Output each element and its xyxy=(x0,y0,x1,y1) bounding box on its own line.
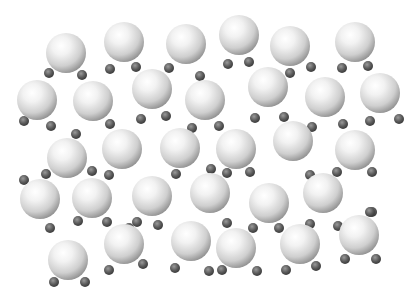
small-atom xyxy=(363,61,373,71)
large-atom xyxy=(219,15,259,55)
small-atom xyxy=(279,112,289,122)
small-atom xyxy=(250,113,260,123)
small-atom xyxy=(44,68,54,78)
small-atom xyxy=(223,59,233,69)
small-atom xyxy=(204,266,214,276)
large-atom xyxy=(270,26,310,66)
small-atom xyxy=(274,223,284,233)
large-atom xyxy=(17,80,57,120)
large-atom xyxy=(104,22,144,62)
small-atom xyxy=(311,261,321,271)
large-atom xyxy=(335,22,375,62)
large-atom xyxy=(216,228,256,268)
small-atom xyxy=(105,119,115,129)
small-atom xyxy=(244,57,254,67)
large-atom xyxy=(46,33,86,73)
large-atom xyxy=(190,173,230,213)
small-atom xyxy=(164,63,174,73)
small-atom xyxy=(217,265,227,275)
large-atom xyxy=(171,221,211,261)
small-atom xyxy=(49,277,59,287)
small-atom xyxy=(367,167,377,177)
small-atom xyxy=(214,121,224,131)
small-atom xyxy=(102,217,112,227)
molecule-illustration xyxy=(0,0,414,297)
small-atom xyxy=(338,119,348,129)
large-atom xyxy=(160,128,200,168)
small-atom xyxy=(104,265,114,275)
large-atom xyxy=(185,80,225,120)
large-atom xyxy=(360,73,400,113)
large-atom xyxy=(104,224,144,264)
small-atom xyxy=(394,114,404,124)
large-atom xyxy=(166,24,206,64)
small-atom xyxy=(41,169,51,179)
large-atom xyxy=(335,130,375,170)
small-atom xyxy=(161,111,171,121)
small-atom xyxy=(80,277,90,287)
large-atom xyxy=(73,81,113,121)
small-atom xyxy=(371,254,381,264)
small-atom xyxy=(105,64,115,74)
small-atom xyxy=(222,218,232,228)
small-atom xyxy=(46,121,56,131)
small-atom xyxy=(71,129,81,139)
small-atom xyxy=(87,166,97,176)
small-atom xyxy=(306,62,316,72)
small-atom xyxy=(170,263,180,273)
small-atom xyxy=(281,265,291,275)
large-atom xyxy=(248,67,288,107)
large-atom xyxy=(249,183,289,223)
small-atom xyxy=(138,259,148,269)
small-atom xyxy=(77,70,87,80)
small-atom xyxy=(285,68,295,78)
large-atom xyxy=(303,173,343,213)
small-atom xyxy=(45,223,55,233)
large-atom xyxy=(273,121,313,161)
small-atom xyxy=(252,266,262,276)
small-atom xyxy=(104,170,114,180)
large-atom xyxy=(305,77,345,117)
large-atom xyxy=(72,178,112,218)
small-atom xyxy=(153,220,163,230)
small-atom xyxy=(136,114,146,124)
large-atom xyxy=(47,138,87,178)
small-atom xyxy=(245,167,255,177)
large-atom xyxy=(280,224,320,264)
small-atom xyxy=(340,254,350,264)
small-atom xyxy=(73,216,83,226)
small-atom xyxy=(131,62,141,72)
small-atom xyxy=(222,168,232,178)
small-atom xyxy=(337,63,347,73)
large-atom xyxy=(132,69,172,109)
small-atom xyxy=(248,223,258,233)
large-atom xyxy=(48,240,88,280)
large-atom xyxy=(102,129,142,169)
large-atom xyxy=(132,176,172,216)
large-atom xyxy=(216,129,256,169)
large-atom xyxy=(20,179,60,219)
small-atom xyxy=(365,116,375,126)
large-atom xyxy=(339,215,379,255)
small-atom xyxy=(171,169,181,179)
